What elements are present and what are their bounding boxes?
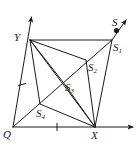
label-S1-base: S	[113, 41, 119, 53]
label-S3: S3	[65, 82, 74, 93]
label-S1-subscript: 1	[119, 47, 123, 55]
label-S4: S4	[36, 108, 45, 119]
geometry-figure: Q X Y S S1 S2 S3 S4	[0, 0, 140, 149]
label-X: X	[91, 130, 98, 141]
y-axis-tick	[19, 84, 26, 86]
label-S1: S1	[113, 42, 122, 53]
label-S: S	[112, 17, 118, 28]
figure-canvas	[0, 0, 140, 149]
point-S-dot	[114, 28, 119, 33]
label-S4-subscript: 4	[42, 113, 46, 121]
label-S3-subscript: 3	[71, 87, 75, 95]
label-S3-base: S	[65, 81, 71, 93]
label-S4-base: S	[36, 107, 42, 119]
segment-Y-S4	[30, 40, 40, 104]
label-S2-base: S	[88, 61, 94, 73]
label-S2-subscript: 2	[94, 67, 98, 75]
label-S2: S2	[88, 62, 97, 73]
label-Y: Y	[14, 32, 20, 43]
label-Q: Q	[3, 129, 11, 140]
